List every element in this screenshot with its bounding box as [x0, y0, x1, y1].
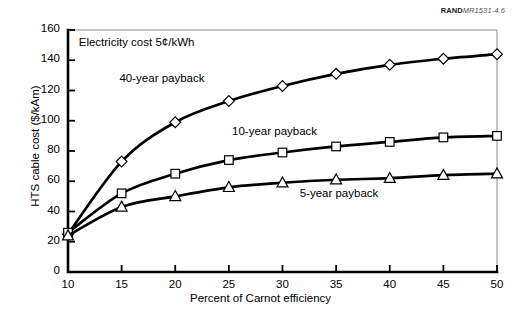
x-axis-title: Percent of Carnot efficiency — [0, 292, 521, 304]
x-axis-tick-label: 40 — [370, 278, 410, 290]
y-axis-tick-label: 100 — [30, 113, 60, 125]
data-point-marker-diamond — [384, 59, 395, 70]
data-point-marker-diamond — [223, 96, 234, 107]
data-point-marker-diamond — [492, 49, 503, 60]
electricity-cost-note: Electricity cost 5¢/kWh — [79, 36, 195, 48]
data-point-marker-square — [493, 132, 502, 141]
figure-container: RANDMR1531-4.6 HTS cable cost ($/kAm) Pe… — [0, 0, 521, 317]
data-point-marker-square — [385, 138, 394, 147]
label-5-year-payback: 5-year payback — [300, 187, 379, 199]
x-axis-tick-label: 50 — [477, 278, 517, 290]
data-point-marker-square — [332, 142, 341, 151]
x-axis-tick-label: 25 — [209, 278, 249, 290]
data-point-marker-square — [278, 148, 287, 157]
y-axis-tick-label: 0 — [30, 264, 60, 276]
x-axis-tick-label: 10 — [48, 278, 88, 290]
series-3 — [62, 168, 502, 240]
y-axis-tick-label: 40 — [30, 204, 60, 216]
data-point-marker-diamond — [331, 68, 342, 79]
x-axis-tick-label: 30 — [263, 278, 303, 290]
x-axis-tick-label: 15 — [102, 278, 142, 290]
y-axis-tick-label: 80 — [30, 143, 60, 155]
x-axis-tick-label: 35 — [316, 278, 356, 290]
y-axis-tick-label: 160 — [30, 22, 60, 34]
y-axis-tick-label: 60 — [30, 173, 60, 185]
data-point-marker-diamond — [277, 81, 288, 92]
label-40-year-payback: 40-year payback — [119, 72, 204, 84]
y-axis-tick-label: 140 — [30, 52, 60, 64]
label-10-year-payback: 10-year payback — [232, 125, 317, 137]
y-axis-tick-label: 20 — [30, 234, 60, 246]
data-point-marker-diamond — [170, 117, 181, 128]
y-axis-tick-label: 120 — [30, 83, 60, 95]
data-point-marker-square — [171, 169, 180, 178]
data-point-marker-square — [225, 156, 234, 165]
data-point-marker-square — [117, 189, 126, 198]
x-axis-tick-label: 20 — [155, 278, 195, 290]
data-point-marker-diamond — [438, 53, 449, 64]
x-axis-tick-label: 45 — [423, 278, 463, 290]
data-point-marker-square — [439, 133, 448, 142]
